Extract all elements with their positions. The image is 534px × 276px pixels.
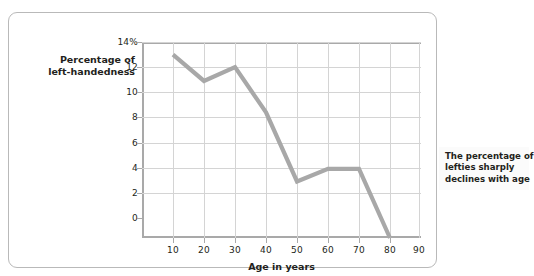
x-axis-tick-labels: 10 20 30 40 50 60 70 80 90 bbox=[142, 245, 421, 257]
x-tick-mark-10 bbox=[173, 238, 174, 243]
annotation-line-2: lefties sharply bbox=[445, 162, 524, 173]
annotation-line-1: The percentage of bbox=[445, 151, 524, 162]
x-tick-mark-60 bbox=[328, 238, 329, 243]
x-tick-mark-20 bbox=[204, 238, 205, 243]
y-tick-label-4: 4 bbox=[104, 163, 138, 173]
x-tick-mark-80 bbox=[390, 238, 391, 243]
x-tick-mark-30 bbox=[235, 238, 236, 243]
plot-area: The percentage of lefties sharply declin… bbox=[142, 42, 421, 238]
annotation-line-3: declines with age bbox=[445, 174, 524, 185]
y-tick-label-6: 6 bbox=[104, 138, 138, 148]
figure-frame: Percentage of left-handedness 14% 12 10 … bbox=[8, 12, 437, 268]
y-tick-label-12: 12 bbox=[104, 62, 138, 72]
x-tick-mark-40 bbox=[266, 238, 267, 243]
x-axis-title: Age in years bbox=[142, 261, 421, 273]
x-tick-mark-50 bbox=[297, 238, 298, 243]
y-tick-label-8: 8 bbox=[104, 112, 138, 122]
data-series-line bbox=[142, 42, 421, 238]
x-tick-label-90: 90 bbox=[399, 245, 439, 255]
y-tick-label-14: 14% bbox=[104, 37, 138, 47]
x-tick-mark-70 bbox=[359, 238, 360, 243]
annotation-callout: The percentage of lefties sharply declin… bbox=[439, 147, 529, 190]
y-tick-label-10: 10 bbox=[104, 87, 138, 97]
y-tick-label-2: 2 bbox=[104, 188, 138, 198]
y-axis-tick-labels: 14% 12 10 8 6 4 2 0 bbox=[102, 42, 138, 238]
y-tick-label-0: 0 bbox=[104, 213, 138, 223]
